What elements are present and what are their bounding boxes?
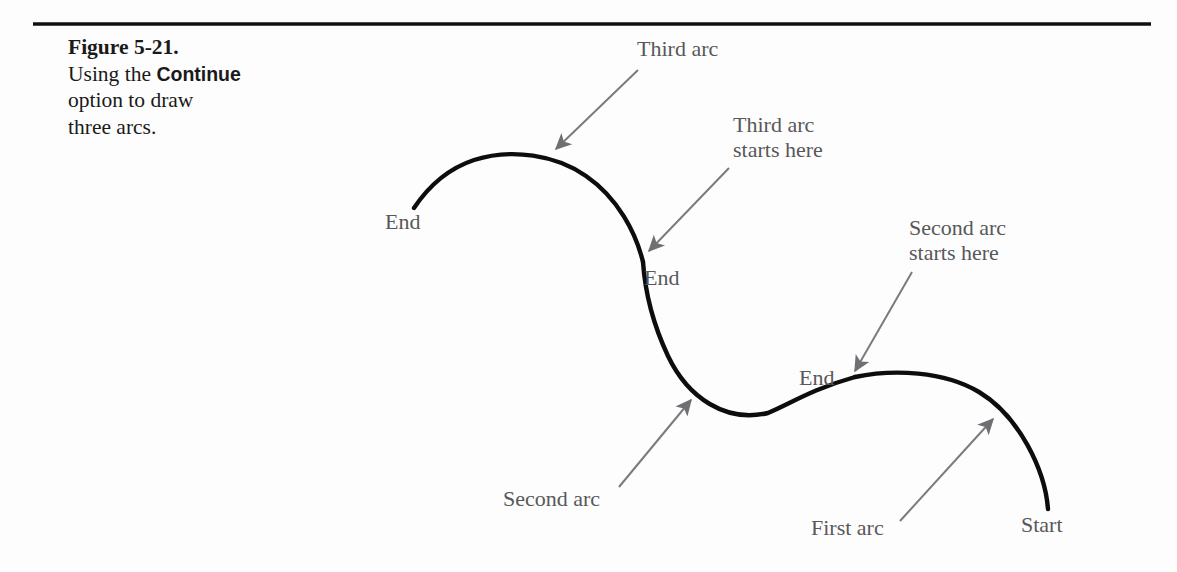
caption-line-2: option to draw — [68, 87, 318, 114]
label-second-arc-starts-here-line1: Second arc — [909, 215, 1006, 240]
leader-first-arc — [900, 419, 993, 521]
label-third-arc-starts-here: Third arc starts here — [733, 112, 823, 162]
leader-third-arc — [556, 70, 638, 149]
label-end-right: End — [799, 365, 834, 390]
figure-page: Figure 5-21. Using the Continue option t… — [0, 0, 1177, 572]
caption-text-before: Using the — [68, 62, 156, 86]
label-start: Start — [1021, 512, 1063, 537]
label-second-arc: Second arc — [503, 486, 600, 511]
caption-line-3: three arcs. — [68, 114, 318, 141]
arc-third — [414, 154, 643, 262]
arc-first — [855, 373, 1048, 509]
caption-option-name: Continue — [156, 63, 240, 85]
caption-line-1: Using the Continue — [68, 61, 318, 88]
label-first-arc: First arc — [811, 515, 884, 540]
label-second-arc-starts-here: Second arc starts here — [909, 215, 1006, 265]
leader-third-arc-starts-here — [649, 168, 729, 251]
label-end-middle: End — [644, 265, 679, 290]
leader-second-arc — [619, 400, 691, 487]
label-third-arc-starts-here-line1: Third arc — [733, 112, 823, 137]
figure-number: Figure 5-21. — [68, 34, 318, 61]
label-second-arc-starts-here-line2: starts here — [909, 240, 1006, 265]
label-third-arc: Third arc — [637, 36, 718, 61]
label-third-arc-starts-here-line2: starts here — [733, 137, 823, 162]
figure-caption: Figure 5-21. Using the Continue option t… — [68, 34, 318, 140]
label-end-left: End — [385, 209, 420, 234]
leader-second-arc-starts-here — [855, 272, 912, 371]
